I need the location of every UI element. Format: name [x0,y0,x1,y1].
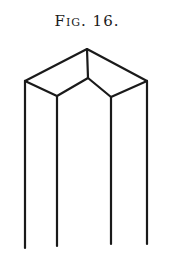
ridge-edge [87,49,88,78]
prism-figure [0,0,193,258]
top-left-edge [25,49,147,81]
front-top-edges [25,78,147,97]
